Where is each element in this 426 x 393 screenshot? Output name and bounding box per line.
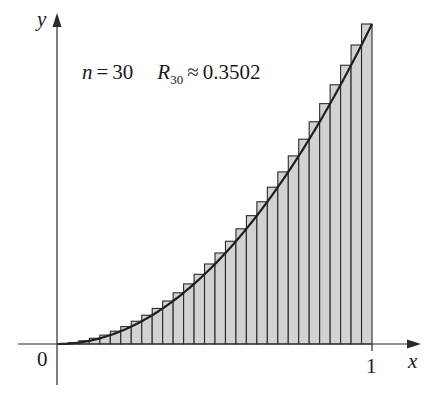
r-subscript: 30: [170, 72, 183, 87]
y-axis-arrow-icon: [53, 13, 62, 27]
riemann-bar: [341, 65, 351, 344]
riemann-bar: [320, 104, 330, 344]
riemann-bar: [288, 156, 298, 344]
x-axis-arrow-icon: [407, 340, 421, 349]
riemann-bar: [309, 122, 319, 344]
equals-sign: =: [97, 60, 109, 84]
approx-sign: ≈: [187, 60, 199, 84]
riemann-bar: [225, 241, 235, 344]
riemann-bar: [330, 85, 340, 344]
riemann-annotation: n=30R30≈0.3502: [82, 62, 260, 83]
riemann-bar: [246, 216, 256, 344]
riemann-bar: [299, 139, 309, 344]
x-tick-label-1: 1: [366, 356, 377, 377]
r-value: 0.3502: [203, 60, 261, 84]
y-axis-label: y: [37, 9, 46, 30]
x-tick-label-0: 0: [37, 349, 48, 370]
riemann-bar: [257, 202, 267, 344]
riemann-bar: [267, 187, 277, 344]
n-symbol: n: [82, 60, 93, 84]
riemann-bar: [205, 264, 215, 344]
riemann-bar: [215, 253, 225, 344]
n-value: 30: [112, 60, 133, 84]
riemann-bar: [351, 45, 361, 344]
riemann-bar: [362, 24, 372, 344]
x-axis-label: x: [408, 351, 417, 372]
riemann-bar: [236, 229, 246, 344]
riemann-bar: [194, 274, 204, 344]
riemann-bar: [278, 172, 288, 344]
r-symbol: R: [157, 60, 170, 84]
riemann-sum-figure: [0, 0, 426, 393]
